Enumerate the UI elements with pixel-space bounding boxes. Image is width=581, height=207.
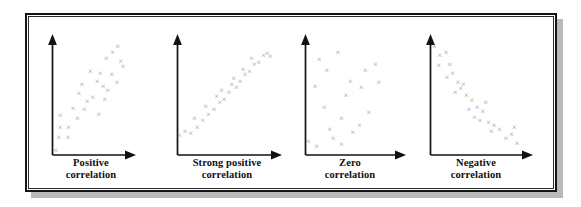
svg-text:×: ×	[66, 122, 71, 132]
svg-text:×: ×	[314, 141, 319, 151]
svg-text:×: ×	[432, 41, 437, 51]
svg-text:×: ×	[359, 82, 364, 92]
svg-text:×: ×	[96, 109, 101, 119]
svg-text:×: ×	[114, 77, 119, 87]
svg-text:×: ×	[515, 138, 520, 148]
svg-text:×: ×	[115, 41, 120, 51]
svg-text:×: ×	[85, 96, 90, 106]
svg-text:×: ×	[56, 132, 61, 142]
zero-correlation-caption: Zero correlation	[294, 157, 406, 181]
svg-text:×: ×	[241, 64, 246, 74]
svg-text:×: ×	[373, 59, 378, 69]
svg-text:×: ×	[512, 122, 517, 132]
data-point-markers: ×× ×× ×× ×× ×× ×× ×× ×× ×× ×× ×× ×× ×× ×	[177, 48, 273, 140]
svg-text:×: ×	[483, 97, 488, 107]
svg-text:×: ×	[98, 68, 103, 78]
svg-text:×: ×	[475, 102, 480, 112]
caption-line-2: correlation	[163, 169, 291, 181]
svg-text:×: ×	[53, 145, 58, 155]
y-axis-arrowhead	[48, 34, 57, 45]
svg-text:×: ×	[348, 76, 353, 86]
svg-text:×: ×	[249, 53, 254, 63]
svg-text:×: ×	[88, 66, 93, 76]
svg-text:×: ×	[436, 60, 441, 70]
svg-text:×: ×	[344, 90, 349, 100]
svg-text:×: ×	[331, 133, 336, 143]
caption-line-1: Strong positive	[193, 157, 262, 168]
svg-text:×: ×	[503, 133, 508, 143]
svg-text:×: ×	[444, 47, 449, 57]
svg-text:×: ×	[357, 120, 362, 130]
svg-text:×: ×	[65, 132, 70, 142]
svg-text:×: ×	[120, 61, 125, 71]
svg-text:×: ×	[58, 110, 63, 120]
svg-text:×: ×	[376, 77, 381, 87]
correlation-scatterplots-figure: ×× ×× ×× ×× ×× ×× ×× ×× ×× ×× ×× ×× ×× ×	[0, 0, 581, 207]
svg-text:×: ×	[306, 136, 311, 146]
svg-text:×: ×	[203, 101, 208, 111]
svg-text:×: ×	[231, 73, 236, 83]
y-axis-arrowhead	[301, 34, 310, 45]
strong-positive-correlation-caption: Strong positive correlation	[163, 157, 291, 181]
svg-text:×: ×	[445, 72, 450, 82]
svg-text:×: ×	[177, 130, 182, 140]
svg-text:×: ×	[464, 90, 469, 100]
svg-text:×: ×	[183, 126, 188, 136]
svg-text:×: ×	[336, 47, 341, 57]
svg-text:×: ×	[350, 127, 355, 137]
svg-text:×: ×	[437, 50, 442, 60]
zero-correlation-plot: ×× ×× ×× ×× ×× ×× ×× ×× ×× ××	[297, 32, 409, 162]
panels-container: ×× ×× ×× ×× ×× ×× ×× ×× ×× ×× ×× ×× ×× ×	[0, 0, 581, 207]
svg-text:×: ×	[102, 94, 107, 104]
caption-line-2: correlation	[420, 169, 532, 181]
positive-correlation-plot: ×× ×× ×× ×× ×× ×× ×× ×× ×× ×× ×× ×× ×× ×	[44, 32, 138, 162]
data-point-markers: ×× ×× ×× ×× ×× ×× ×× ×× ×× ×× ×× ×× ×× ×	[53, 41, 125, 155]
svg-text:×: ×	[339, 113, 344, 123]
svg-text:×: ×	[366, 107, 371, 117]
svg-text:×: ×	[324, 65, 329, 75]
svg-text:×: ×	[77, 88, 82, 98]
data-point-markers: ×× ×× ×× ×× ×× ×× ×× ×× ×× ×× ×× ×× ×× ×	[432, 41, 520, 148]
svg-text:×: ×	[322, 102, 327, 112]
svg-text:×: ×	[268, 51, 273, 61]
caption-line-1: Positive	[73, 157, 109, 168]
y-axis-arrowhead	[173, 34, 182, 45]
svg-text:×: ×	[478, 115, 483, 125]
negative-correlation-plot: ×× ×× ×× ×× ×× ×× ×× ×× ×× ×× ×× ×× ×× ×	[422, 32, 536, 162]
svg-text:×: ×	[461, 79, 466, 89]
svg-text:×: ×	[467, 104, 472, 114]
svg-text:×: ×	[90, 92, 95, 102]
svg-text:×: ×	[109, 69, 114, 79]
svg-text:×: ×	[313, 81, 318, 91]
svg-text:×: ×	[317, 54, 322, 64]
svg-text:×: ×	[195, 122, 200, 132]
svg-text:×: ×	[212, 104, 217, 114]
strong-positive-correlation-plot: ×× ×× ×× ×× ×× ×× ×× ×× ×× ×× ×× ×× ×× ×	[169, 32, 285, 162]
svg-text:×: ×	[200, 115, 205, 125]
svg-text:×: ×	[339, 139, 344, 149]
svg-text:×: ×	[453, 87, 458, 97]
svg-text:×: ×	[363, 65, 368, 75]
caption-line-1: Zero	[339, 157, 361, 168]
svg-text:×: ×	[489, 126, 494, 136]
svg-text:×: ×	[75, 113, 80, 123]
svg-text:×: ×	[450, 68, 455, 78]
svg-text:×: ×	[497, 124, 502, 134]
svg-text:×: ×	[219, 85, 224, 95]
caption-line-2: correlation	[294, 169, 406, 181]
svg-text:×: ×	[71, 103, 76, 113]
data-point-markers: ×× ×× ×× ×× ×× ×× ×× ×× ×× ××	[306, 47, 382, 151]
svg-text:×: ×	[80, 79, 85, 89]
svg-text:×: ×	[472, 112, 477, 122]
negative-correlation-caption: Negative correlation	[420, 157, 532, 181]
svg-text:×: ×	[104, 53, 109, 63]
svg-text:×: ×	[58, 122, 63, 132]
caption-line-1: Negative	[456, 157, 496, 168]
caption-line-2: correlation	[39, 169, 143, 181]
positive-correlation-caption: Positive correlation	[39, 157, 143, 181]
svg-text:×: ×	[188, 128, 193, 138]
svg-text:×: ×	[192, 113, 197, 123]
